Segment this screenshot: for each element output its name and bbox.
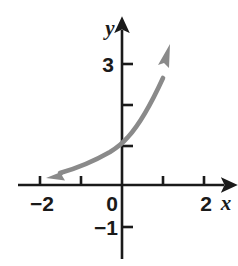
exponential-graph-figure: −2 2 0 3 −1 y x (0, 0, 238, 266)
x-axis-label: x (220, 191, 232, 215)
y-tick-label--1: −1 (94, 216, 118, 239)
y-tick-label-3: 3 (102, 53, 114, 76)
x-tick-label-2: 2 (200, 192, 212, 215)
origin-label: 0 (106, 192, 118, 215)
figure-background (0, 0, 238, 266)
x-tick-label--2: −2 (30, 192, 54, 215)
plot-canvas: −2 2 0 3 −1 y x (0, 0, 238, 266)
